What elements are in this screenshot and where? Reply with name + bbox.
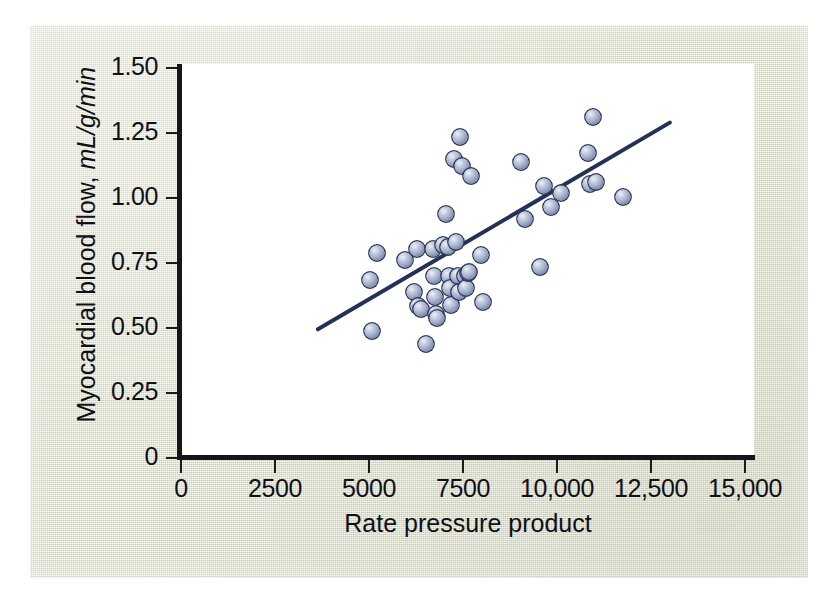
x-axis-tick-label: 2500: [248, 474, 302, 503]
x-axis-tick-label: 0: [174, 474, 188, 503]
x-axis-tick: [180, 460, 182, 473]
y-axis-title-text: Myocardial blood flow,: [72, 170, 100, 423]
scatter-point: [407, 284, 422, 299]
y-axis-tick: [166, 457, 177, 459]
scatter-point: [413, 301, 428, 316]
y-axis-tick: [166, 327, 177, 329]
x-axis-tick-label: 12,500: [614, 474, 688, 503]
regression-line: [318, 123, 670, 330]
y-axis-title-units: mL/g/min: [72, 67, 100, 170]
scatter-point: [369, 245, 384, 260]
y-axis-tick: [166, 262, 177, 264]
figure-page: 00.250.500.751.001.251.50 02500500075001…: [0, 0, 838, 607]
x-axis-tick: [744, 460, 746, 473]
x-axis-tick-label: 7500: [436, 474, 490, 503]
y-axis-tick: [166, 132, 177, 134]
scatter-point: [463, 168, 478, 183]
x-axis-tick: [368, 460, 370, 473]
scatter-point: [537, 179, 552, 194]
x-axis-tick-label: 15,000: [708, 474, 782, 503]
scatter-point: [459, 280, 474, 295]
scatter-point: [589, 175, 604, 190]
x-axis-tick: [556, 460, 558, 473]
x-axis-tick: [274, 460, 276, 473]
scatter-point: [365, 323, 380, 338]
scatter-point: [518, 211, 533, 226]
scatter-point: [513, 154, 528, 169]
scatter-point: [410, 241, 425, 256]
scatter-point: [580, 145, 595, 160]
scatter-point: [427, 269, 442, 284]
scatter-point: [398, 253, 413, 268]
scatter-point: [428, 289, 443, 304]
y-axis-tick: [166, 197, 177, 199]
scatter-point: [462, 265, 477, 280]
scatter-point: [429, 310, 444, 325]
scatter-point: [616, 189, 631, 204]
x-axis-tick-label: 5000: [342, 474, 396, 503]
x-axis-title: Rate pressure product: [182, 509, 754, 538]
scatter-plot-figure: 00.250.500.751.001.251.50 02500500075001…: [0, 0, 838, 607]
scatter-point: [449, 235, 464, 250]
y-axis-tick: [166, 392, 177, 394]
x-axis-tick: [650, 460, 652, 473]
x-axis-tick: [462, 460, 464, 473]
scatter-point: [553, 185, 568, 200]
scatter-point: [452, 129, 467, 144]
x-axis-tick-label: 10,000: [520, 474, 594, 503]
scatter-point: [443, 297, 458, 312]
scatter-point: [586, 110, 601, 125]
scatter-point: [474, 248, 489, 263]
y-axis-title: Myocardial blood flow, mL/g/min: [72, 93, 101, 423]
scatter-point: [362, 272, 377, 287]
scatter-point: [476, 295, 491, 310]
scatter-point: [419, 336, 434, 351]
scatter-point: [533, 259, 548, 274]
scatter-point: [439, 206, 454, 221]
scatter-point: [543, 200, 558, 215]
y-axis-tick: [166, 67, 177, 69]
y-axis-tick-label: 0: [78, 442, 158, 471]
